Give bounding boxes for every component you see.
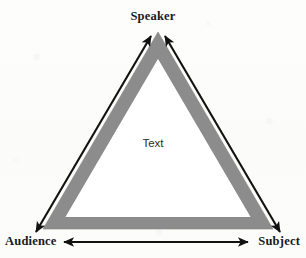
vertex-label-audience: Audience xyxy=(5,234,57,249)
center-label-text: Text xyxy=(0,137,306,149)
rhetorical-triangle-graphic xyxy=(0,0,306,258)
vertex-label-speaker: Speaker xyxy=(0,9,306,24)
diagram-canvas: Speaker Audience Subject Text xyxy=(0,0,306,258)
vertex-label-subject: Subject xyxy=(258,234,300,249)
